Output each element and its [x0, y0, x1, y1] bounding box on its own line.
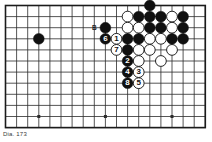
- stone-white[interactable]: [144, 45, 155, 56]
- stone-white[interactable]: [156, 33, 167, 44]
- stone-black-move-8[interactable]: [122, 78, 133, 89]
- stone-white[interactable]: [167, 22, 178, 33]
- stone-black[interactable]: [178, 22, 189, 33]
- stone-white-move-7[interactable]: [111, 45, 122, 56]
- stone-white[interactable]: [133, 45, 144, 56]
- stone-white[interactable]: [122, 11, 133, 22]
- stone-white[interactable]: [122, 22, 133, 33]
- stone-black[interactable]: [122, 45, 133, 56]
- stone-black[interactable]: [167, 33, 178, 44]
- figure-caption: Dia. 173: [3, 130, 27, 138]
- stone-white[interactable]: [133, 22, 144, 33]
- stone-white-move-1[interactable]: [111, 33, 122, 44]
- go-diagram-screen: 61724385 B Dia. 173: [0, 0, 212, 142]
- stone-black[interactable]: [178, 11, 189, 22]
- stone-black[interactable]: [133, 33, 144, 44]
- stone-white-move-5[interactable]: [133, 78, 144, 89]
- stone-white[interactable]: [144, 33, 155, 44]
- stone-black[interactable]: [156, 11, 167, 22]
- stone-white-move-3[interactable]: [133, 67, 144, 78]
- stone-white[interactable]: [156, 56, 167, 67]
- stone-black[interactable]: [122, 33, 133, 44]
- marker-b: B: [88, 24, 100, 31]
- stone-black[interactable]: [144, 0, 155, 11]
- stone-black[interactable]: [178, 33, 189, 44]
- stone-white[interactable]: [133, 56, 144, 67]
- stone-white[interactable]: [167, 11, 178, 22]
- stone-black-move-4[interactable]: [122, 67, 133, 78]
- go-board-container[interactable]: 61724385 B: [0, 0, 212, 131]
- stone-black[interactable]: [156, 22, 167, 33]
- stone-black[interactable]: [133, 11, 144, 22]
- stone-black[interactable]: [144, 22, 155, 33]
- go-board-svg[interactable]: [0, 0, 212, 131]
- stone-black[interactable]: [144, 11, 155, 22]
- stone-black-move-2[interactable]: [122, 56, 133, 67]
- stone-black-move-6[interactable]: [100, 33, 111, 44]
- stone-white[interactable]: [167, 45, 178, 56]
- stone-black[interactable]: [100, 22, 111, 33]
- stone-black[interactable]: [33, 33, 44, 44]
